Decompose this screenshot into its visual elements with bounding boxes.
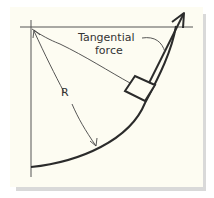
tangential-force-vector	[149, 15, 183, 83]
tangential-force-label-line1: Tangential	[78, 32, 135, 44]
label-leader-line	[142, 38, 165, 52]
diagram-canvas	[0, 0, 214, 198]
radius-label: R	[61, 87, 69, 99]
tangential-force-label-line2: force	[95, 45, 123, 57]
